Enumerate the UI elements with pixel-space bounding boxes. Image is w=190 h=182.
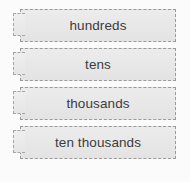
tile-label: thousands	[66, 97, 129, 111]
list-item[interactable]: tens	[20, 48, 176, 81]
list-item[interactable]: hundreds	[20, 9, 176, 42]
tile-label: tens	[85, 58, 111, 72]
drag-handle-icon[interactable]	[13, 13, 25, 36]
draggable-tile[interactable]: ten thousands	[20, 126, 176, 159]
list-item[interactable]: ten thousands	[20, 126, 176, 159]
drag-handle-icon[interactable]	[13, 130, 25, 153]
draggable-tile[interactable]: tens	[20, 48, 176, 81]
list-item[interactable]: thousands	[20, 87, 176, 120]
draggable-tile[interactable]: thousands	[20, 87, 176, 120]
tile-label: hundreds	[69, 19, 126, 33]
tile-label: ten thousands	[55, 136, 141, 150]
drag-handle-icon[interactable]	[13, 91, 25, 114]
draggable-label-list: hundreds tens thousands ten thousands	[0, 0, 190, 182]
drag-handle-icon[interactable]	[13, 52, 25, 75]
draggable-tile[interactable]: hundreds	[20, 9, 176, 42]
